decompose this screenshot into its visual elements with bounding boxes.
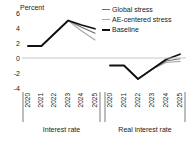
x-axis-tick-label: 2021 — [38, 93, 45, 107]
x-axis-tick-label: 2022 — [135, 93, 142, 107]
x-axis-tick-label: 2025 — [92, 93, 99, 107]
chart-container: Percent Global stress AE-centered stress… — [0, 0, 191, 146]
panel-title: Interest rate — [18, 126, 105, 133]
series-line — [28, 21, 95, 47]
x-axis-tick-label: 2023 — [65, 93, 72, 107]
x-axis-tick-label: 2020 — [25, 93, 32, 107]
x-axis-tick-label: 2024 — [163, 93, 170, 107]
x-axis-tick-label: 2024 — [78, 93, 85, 107]
x-axis-tick-label: 2022 — [51, 93, 58, 107]
x-axis-tick-label: 2021 — [121, 93, 128, 107]
x-axis-tick-label: 2023 — [149, 93, 156, 107]
panel-title: Real interest rate — [100, 126, 190, 133]
x-axis-tick-label: 2020 — [107, 93, 114, 107]
x-axis-tick-label: 2025 — [177, 93, 184, 107]
series-line — [110, 61, 180, 79]
plot-area — [0, 0, 191, 146]
